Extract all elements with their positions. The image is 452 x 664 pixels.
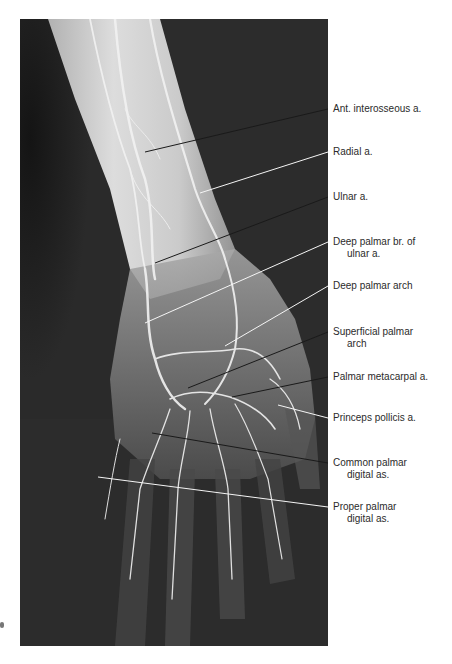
label-superficial-palmar-arch: Superficial palmar arch [333,326,413,350]
label-text: Ant. interosseous a. [333,103,421,114]
label-ant-interosseous: Ant. interosseous a. [333,103,421,115]
label-common-palmar-digital: Common palmar digital as. [333,457,407,481]
label-text: Radial a. [333,146,372,157]
label-deep-palmar-arch: Deep palmar arch [333,280,412,292]
label-palmar-metacarpal: Palmar metacarpal a. [333,371,428,383]
label-text: Ulnar a. [333,191,368,202]
xray-illustration [20,19,328,646]
label-radial: Radial a. [333,146,372,158]
label-text: Deep palmar br. of [333,236,415,247]
angiogram-image [20,19,328,646]
label-text-line2: digital as. [333,513,396,525]
label-text: Princeps pollicis a. [333,412,416,423]
label-text: Proper palmar [333,501,396,512]
label-text-line2: ulnar a. [333,248,415,260]
label-ulnar: Ulnar a. [333,191,368,203]
label-text-line2: digital as. [333,469,407,481]
label-text: Common palmar [333,457,407,468]
cropped-text-fragment [0,622,4,628]
label-text: Superficial palmar [333,326,413,337]
label-proper-palmar-digital: Proper palmar digital as. [333,501,396,525]
label-princeps-pollicis: Princeps pollicis a. [333,412,416,424]
label-text: Deep palmar arch [333,280,412,291]
label-text-line2: arch [333,338,413,350]
label-text: Palmar metacarpal a. [333,371,428,382]
label-deep-palmar-br: Deep palmar br. of ulnar a. [333,236,415,260]
